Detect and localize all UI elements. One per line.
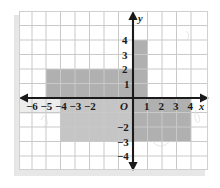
x-tick-label: 1 bbox=[144, 100, 150, 112]
coordinate-plane-figure: −6 −5 −4 −3 −2 1 2 3 4 4 3 2 1 −2 −3 −4 … bbox=[0, 0, 220, 188]
y-tick-label: 2 bbox=[122, 63, 128, 75]
y-tick-label: 1 bbox=[124, 78, 130, 90]
x-tick-label: 3 bbox=[173, 100, 179, 112]
origin-label: O bbox=[120, 100, 128, 112]
x-tick-label: 4 bbox=[188, 100, 194, 112]
y-tick-label: −3 bbox=[117, 136, 129, 148]
x-tick-label: −6 bbox=[26, 100, 38, 112]
y-tick-label: 3 bbox=[122, 49, 128, 61]
x-tick-label: −5 bbox=[41, 100, 53, 112]
x-tick-label: −2 bbox=[84, 100, 96, 112]
x-tick-label: 2 bbox=[159, 100, 165, 112]
x-tick-label: −4 bbox=[55, 100, 67, 112]
coordinate-plane-svg: −6 −5 −4 −3 −2 1 2 3 4 4 3 2 1 −2 −3 −4 … bbox=[0, 0, 220, 188]
y-tick-label: −4 bbox=[117, 150, 129, 162]
y-tick-label: 4 bbox=[122, 34, 128, 46]
x-axis-label: x bbox=[198, 101, 204, 112]
y-tick-label: −2 bbox=[117, 121, 129, 133]
x-tick-label: −3 bbox=[70, 100, 82, 112]
y-axis-label: y bbox=[136, 13, 143, 24]
